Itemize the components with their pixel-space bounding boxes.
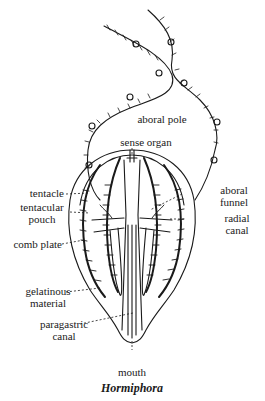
hormiphora-diagram: aboral pole sense organ tentacle tentacu… [0, 0, 265, 401]
label-aboral-pole: aboral pole [122, 113, 202, 125]
label-tentacular-pouch-line1: tentacular [14, 201, 70, 213]
label-sense-organ: sense organ [106, 136, 186, 148]
label-tentacular-pouch-line2: pouch [14, 213, 70, 225]
label-comb-plate: comb plate [4, 238, 62, 250]
label-paragastric-canal-line1: paragastric [34, 318, 94, 330]
label-gelatinous-material-line1: gelatinous [20, 285, 76, 297]
figure-caption: Hormiphora [92, 382, 172, 394]
label-aboral-funnel-line2: funnel [214, 196, 254, 208]
label-aboral-funnel-line1: aboral [214, 184, 254, 196]
tentacle-right [148, 10, 217, 200]
label-tentacle: tentacle [6, 187, 64, 199]
label-radial-canal-line2: canal [217, 224, 257, 236]
label-gelatinous-material-line2: material [20, 297, 76, 309]
label-mouth: mouth [102, 366, 162, 378]
label-radial-canal-line1: radial [217, 212, 257, 224]
label-paragastric-canal-line2: canal [34, 330, 94, 342]
